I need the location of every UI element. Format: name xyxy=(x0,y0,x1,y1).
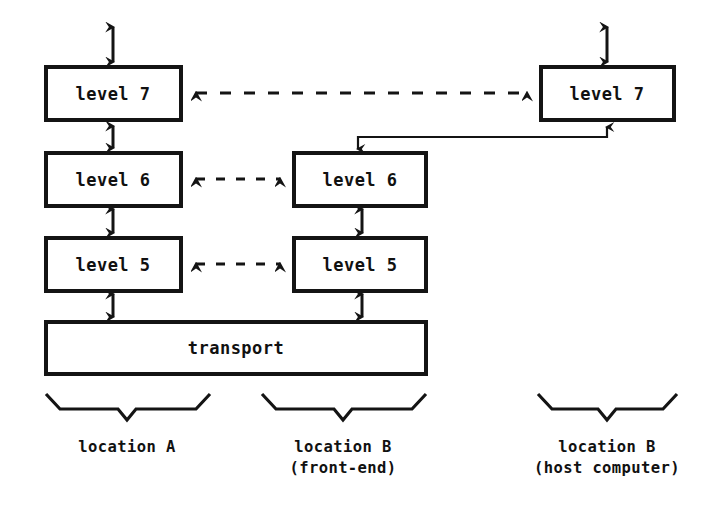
brace-path xyxy=(538,394,677,420)
caption-line-1: location B xyxy=(558,438,655,456)
node-label: level 5 xyxy=(75,255,150,275)
node-a-level5[interactable]: level 5 xyxy=(46,238,181,291)
caption-line-1: location B xyxy=(294,438,391,456)
caption-location-b-host: location B (host computer) xyxy=(534,438,680,477)
diagram-canvas: level 7 level 6 level 5 transport level … xyxy=(0,0,724,509)
brace-location-a xyxy=(46,394,210,420)
node-label: level 5 xyxy=(322,255,397,275)
caption-line-2: (front-end) xyxy=(289,459,396,477)
elbow-shaft xyxy=(358,127,607,149)
caption-line-2: (host computer) xyxy=(534,459,680,477)
node-label: level 7 xyxy=(569,84,644,104)
node-a-level7[interactable]: level 7 xyxy=(46,67,181,120)
node-label: transport xyxy=(188,338,285,358)
node-label: level 6 xyxy=(322,170,397,190)
caption-location-b-frontend: location B (front-end) xyxy=(289,438,396,477)
caption-line-1: location A xyxy=(78,438,176,456)
node-transport[interactable]: transport xyxy=(46,322,426,374)
node-h-level7[interactable]: level 7 xyxy=(541,67,674,120)
brace-path xyxy=(46,394,210,420)
brace-location-b-host xyxy=(538,394,677,420)
caption-location-a: location A xyxy=(78,438,176,456)
connector-b-level6-h-level7 xyxy=(358,127,607,149)
protocol-layer-diagram: level 7 level 6 level 5 transport level … xyxy=(0,0,724,509)
node-b-level5[interactable]: level 5 xyxy=(294,238,426,291)
node-label: level 7 xyxy=(75,84,150,104)
brace-location-b-frontend xyxy=(262,394,426,420)
node-a-level6[interactable]: level 6 xyxy=(46,153,181,206)
brace-path xyxy=(262,394,426,420)
node-label: level 6 xyxy=(75,170,150,190)
node-b-level6[interactable]: level 6 xyxy=(294,153,426,206)
